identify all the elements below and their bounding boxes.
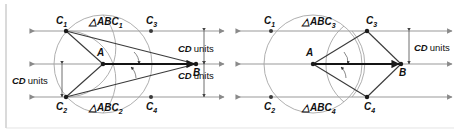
measure-label-left-right-cd-bottom: CDunits: [178, 70, 214, 81]
segment-c2-b-left: [66, 64, 196, 97]
label-c4-left: C4: [146, 101, 157, 114]
vertex-a-left: [101, 62, 105, 66]
measure-label-right-cd: CDunits: [414, 42, 450, 53]
label-c3-right: C3: [366, 15, 377, 28]
segment-c3-b-right: [367, 31, 401, 64]
vertex-b-left: [194, 62, 198, 66]
label-c1-right: C1: [264, 15, 275, 28]
segment-c4-b-right: [367, 64, 401, 97]
label-c4-right: C4: [364, 101, 375, 114]
label-c2-right: C2: [264, 101, 275, 114]
angle-arc-upper-right: [344, 52, 348, 64]
construction-arc-c2-left: [66, 15, 116, 97]
label-triangle-abc1: △ABC1: [88, 16, 123, 29]
vertex-c4-left: [149, 95, 153, 99]
vertex-c4-right: [365, 95, 369, 99]
measure-label-left-right-cd-top: CDunits: [178, 43, 214, 54]
segment-c1-b-left: [66, 31, 196, 64]
label-triangle-abc3: △ABC3: [301, 16, 336, 29]
vertex-c2-left: [64, 95, 68, 99]
label-c1-left: C1: [56, 15, 67, 28]
right-panel: C1 C2 C3 C4 A B △ABC3 △ABC4 CDunits: [236, 15, 452, 115]
vertex-c1-right: [269, 29, 273, 33]
label-a-left: A: [96, 47, 104, 58]
label-c3-left: C3: [146, 15, 157, 28]
vertex-a-right: [311, 62, 315, 66]
vertex-c3-right: [365, 29, 369, 33]
label-triangle-abc2: △ABC2: [88, 102, 123, 115]
vertex-c1-left: [64, 29, 68, 33]
vertex-c3-left: [149, 29, 153, 33]
geometry-figure: C1 C2 C3 C4 A B △ABC1 △ABC2 CDunits CDun…: [0, 0, 460, 132]
label-c2-left: C2: [56, 101, 67, 114]
angle-arc-lower-left: [131, 67, 136, 78]
figure-canvas: C1 C2 C3 C4 A B △ABC1 △ABC2 CDunits CDun…: [0, 0, 460, 132]
angle-arc-upper-left: [134, 52, 139, 64]
label-a-right: A: [305, 47, 313, 58]
label-b-right: B: [399, 67, 406, 78]
construction-arc-c1-left: [66, 31, 116, 113]
left-panel: C1 C2 C3 C4 A B △ABC1 △ABC2 CDunits CDun…: [12, 15, 224, 115]
vertex-b-right: [399, 62, 403, 66]
angle-arc-lower-right: [341, 67, 346, 78]
measure-label-left-cd: CDunits: [12, 75, 48, 86]
label-triangle-abc4: △ABC4: [301, 102, 336, 115]
vertex-c2-right: [269, 95, 273, 99]
